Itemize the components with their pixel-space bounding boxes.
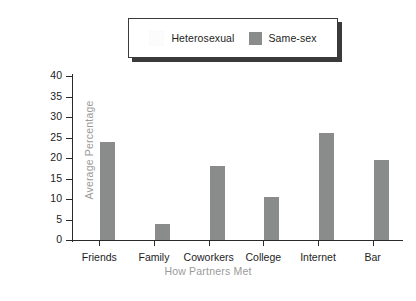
y-tick-label: 20: [40, 151, 62, 163]
bar: [155, 224, 170, 240]
x-tick: [318, 240, 319, 246]
y-tick-label: 10: [40, 192, 62, 204]
legend-label-same-sex: Same-sex: [269, 32, 317, 44]
y-tick-label: 0: [40, 233, 62, 245]
chart-legend: Heterosexual Same-sex: [128, 18, 338, 58]
x-tick: [209, 240, 210, 246]
bar-series-group: [72, 76, 400, 240]
x-tick: [99, 240, 100, 246]
y-tick-label: 30: [40, 110, 62, 122]
y-tick-label: 35: [40, 90, 62, 102]
x-tick: [263, 240, 264, 246]
plot-area: 0510152025303540 FriendsFamilyCoworkersC…: [72, 76, 400, 240]
legend-swatch-heterosexual: [149, 31, 164, 46]
legend-box: Heterosexual Same-sex: [128, 18, 338, 58]
x-tick: [373, 240, 374, 246]
x-tick-label: Family: [139, 251, 170, 263]
x-tick-label: Bar: [364, 251, 380, 263]
y-tick-label: 25: [40, 131, 62, 143]
legend-label-heterosexual: Heterosexual: [171, 32, 234, 44]
x-tick-label: College: [246, 251, 282, 263]
x-tick-label: Internet: [300, 251, 336, 263]
bar-chart: Heterosexual Same-sex 0510152025303540 F…: [0, 0, 416, 301]
bar: [319, 133, 334, 240]
legend-entry-heterosexual: Heterosexual: [149, 31, 234, 46]
bar: [210, 166, 225, 240]
y-tick: 0: [66, 240, 72, 241]
bar: [100, 142, 115, 240]
x-axis-title: How Partners Met: [0, 265, 416, 277]
legend-swatch-same-sex: [249, 32, 262, 45]
x-tick-label: Coworkers: [184, 251, 234, 263]
x-axis-line: [71, 240, 403, 241]
y-tick-label: 5: [40, 213, 62, 225]
legend-entry-same-sex: Same-sex: [249, 32, 317, 45]
y-tick-label: 15: [40, 172, 62, 184]
bar: [264, 197, 279, 240]
bar: [374, 160, 389, 240]
y-axis-title: Average Percentage: [83, 65, 95, 235]
x-tick-label: Friends: [82, 251, 117, 263]
y-tick-label: 40: [40, 69, 62, 81]
x-tick: [154, 240, 155, 246]
